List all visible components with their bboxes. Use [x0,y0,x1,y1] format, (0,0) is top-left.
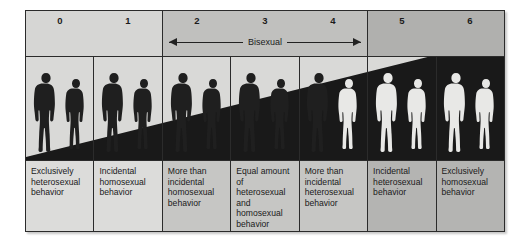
figure-cell-5 [368,57,436,160]
caption-cell-5: Incidental heterosexual behavior [368,161,436,231]
figure-cell-2 [163,57,231,160]
header-number-set: 0 1 [26,11,162,31]
male-silhouette-icon [101,71,127,155]
header-group-heterosexual: 0 1 [26,11,163,56]
male-silhouette-icon [170,71,196,155]
arrow-right-icon [287,42,361,43]
kinsey-scale-chart: 0 1 2 3 4 Bisexual 5 6 [25,10,505,232]
female-silhouette-icon [475,77,497,155]
scale-number-0: 0 [26,11,94,31]
bisexual-range-indicator: Bisexual [169,33,361,51]
male-silhouette-icon [443,71,469,155]
figure-panel-row [26,57,504,161]
scale-number-4: 4 [299,11,367,31]
figure-cell-container [26,57,504,160]
male-silhouette-icon [375,71,401,155]
female-silhouette-icon [270,77,292,155]
scale-number-6: 6 [436,11,504,31]
female-silhouette-icon [133,77,155,155]
female-silhouette-icon [65,77,87,155]
caption-cell-2: More than incidental homosexual behavior [163,161,231,231]
figure-cell-6 [437,57,504,160]
male-silhouette-icon [306,71,332,155]
scale-number-3: 3 [231,11,299,31]
scale-number-2: 2 [163,11,231,31]
caption-cell-0: Exclusively heterosexual behavior [26,161,94,231]
header-number-set: 2 3 4 [163,11,367,31]
caption-row: Exclusively heterosexual behavior Incide… [26,161,504,231]
figure-cell-3 [231,57,299,160]
caption-cell-3: Equal amount of heterosexual and homosex… [231,161,299,231]
female-silhouette-icon [407,77,429,155]
header-group-bisexual: 2 3 4 Bisexual [163,11,368,56]
scale-header-row: 0 1 2 3 4 Bisexual 5 6 [26,11,504,57]
header-group-homosexual: 5 6 [368,11,504,56]
figure-cell-0 [26,57,94,160]
caption-cell-6: Exclusively homosexual behavior [437,161,504,231]
female-silhouette-icon [338,77,360,155]
female-silhouette-icon [202,77,224,155]
caption-cell-4: More than incidental heterosexual behavi… [300,161,368,231]
figure-cell-4 [300,57,368,160]
male-silhouette-icon [238,71,264,155]
scale-number-1: 1 [94,11,162,31]
bisexual-label: Bisexual [243,38,287,47]
figure-cell-1 [94,57,162,160]
caption-cell-1: Incidental homosexual behavior [94,161,162,231]
header-number-set: 5 6 [368,11,504,31]
male-silhouette-icon [33,71,59,155]
arrow-left-icon [169,42,243,43]
scale-number-5: 5 [368,11,436,31]
